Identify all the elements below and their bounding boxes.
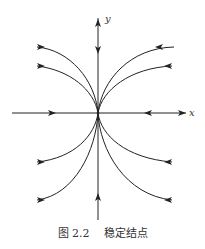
trajectory-lower-right-outer bbox=[98, 113, 172, 200]
trajectory-lower-left-outer bbox=[37, 113, 98, 200]
x-axis-label: x bbox=[189, 107, 195, 118]
trajectory-upper-left-inner bbox=[37, 66, 98, 113]
figure-caption: 图 2.2稳定结点 bbox=[0, 224, 205, 240]
figure-title: 稳定结点 bbox=[104, 227, 148, 240]
trajectory-upper-right-inner bbox=[98, 66, 172, 113]
stable-node-origin bbox=[97, 112, 100, 115]
trajectory-upper-left-outer bbox=[37, 47, 98, 113]
trajectory-upper-right-outer bbox=[98, 47, 174, 113]
phase-portrait-stable-node: x y bbox=[0, 0, 205, 249]
figure-number: 图 2.2 bbox=[58, 227, 90, 240]
y-axis-label: y bbox=[104, 13, 111, 24]
